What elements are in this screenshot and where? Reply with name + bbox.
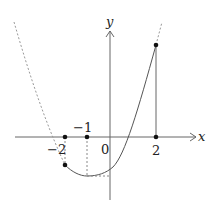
x-axis-label: x	[198, 129, 206, 144]
origin-label: 0	[101, 142, 109, 157]
function-graph: y x 0 −2 −1 2	[0, 0, 216, 206]
point-curve-2	[154, 43, 159, 48]
y-axis-label: y	[105, 14, 114, 29]
tick-label-neg1: −1	[73, 120, 92, 135]
point-axis-neg1	[85, 135, 90, 140]
tick-label-neg2: −2	[47, 142, 66, 157]
curve-dashed-right	[156, 22, 162, 45]
point-axis-neg2	[63, 135, 68, 140]
point-curve-neg2	[63, 163, 68, 168]
tick-label-2: 2	[152, 143, 160, 158]
point-axis-2	[154, 135, 159, 140]
